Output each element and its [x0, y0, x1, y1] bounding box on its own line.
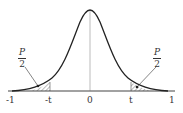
right-tail-region	[131, 82, 151, 91]
right-pointer	[137, 67, 156, 87]
tick-label-t: t	[129, 96, 133, 105]
tick-label-neg-t: -t	[45, 96, 52, 105]
left-pointer	[25, 67, 38, 86]
tick-label-neg-one: -1	[6, 96, 15, 105]
tick-label-zero: 0	[87, 96, 93, 105]
right-p-over-2-label: P 2	[153, 48, 161, 69]
tick-label-one: 1	[169, 96, 175, 105]
left-tail-region	[30, 82, 50, 91]
left-p-over-2-label: P 2	[18, 48, 26, 69]
